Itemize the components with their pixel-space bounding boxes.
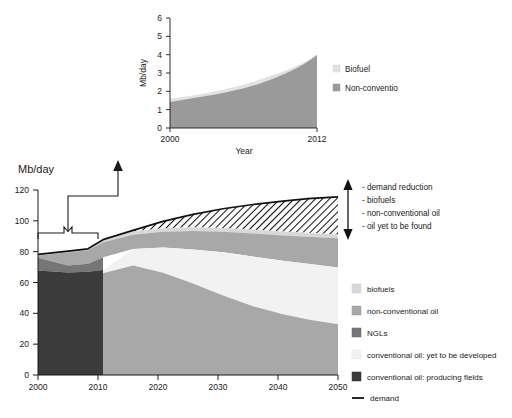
gap-span-arrow <box>343 179 352 240</box>
inset-legend-swatch-non-conventional-oil <box>333 84 340 91</box>
main-legend-label-conventional-yet-to-be-developed: conventional oil: yet to be developed <box>367 351 496 360</box>
main-xtick-2020: 2020 <box>149 382 168 392</box>
main-ytick-120: 120 <box>15 185 29 195</box>
callout-arrow-head <box>113 160 123 171</box>
inset-chart-container: 0 1 2 3 4 5 6 2000 2012 Mb/day Year Biof… <box>118 4 398 156</box>
inset-xtick-2012: 2012 <box>308 134 327 144</box>
main-x-ticks: 2000 2010 2020 2030 2040 2050 <box>29 375 348 392</box>
inset-y-axis-label: Mb/day <box>138 58 148 87</box>
inset-ytick-4: 4 <box>157 50 162 60</box>
inset-x-axis-label: Year <box>235 146 252 156</box>
main-ytick-0: 0 <box>24 370 29 380</box>
main-legend-label-conventional-producing-fields: conventional oil: producing fields <box>367 373 483 382</box>
gap-annotation-list: - demand reduction - biofuels - non-conv… <box>362 183 440 231</box>
inset-ytick-5: 5 <box>157 31 162 41</box>
main-ytick-20: 20 <box>20 339 30 349</box>
gap-annotation-item-2: - non-conventional oil <box>362 209 440 218</box>
main-y-ticks: 0 20 40 60 80 100 120 <box>15 185 38 380</box>
inset-chart-svg: 0 1 2 3 4 5 6 2000 2012 Mb/day Year Biof… <box>118 4 398 156</box>
inset-x-ticks: 2000 2012 <box>161 128 327 144</box>
gap-annotation-item-3: - oil yet to be found <box>362 222 432 231</box>
callout-connector <box>68 168 118 232</box>
inset-ytick-0: 0 <box>157 123 162 133</box>
main-xtick-2050: 2050 <box>329 382 348 392</box>
inset-y-ticks: 0 1 2 3 4 5 6 <box>157 13 170 133</box>
main-ytick-60: 60 <box>20 278 30 288</box>
main-legend-label-ngls: NGLs <box>367 329 387 338</box>
main-area-producing-fields <box>38 270 103 375</box>
main-plot-area <box>38 197 338 375</box>
inset-ytick-6: 6 <box>157 13 162 23</box>
gap-annotation-item-0: - demand reduction <box>362 183 433 192</box>
inset-legend-label-biofuel: Biofuel <box>345 65 370 74</box>
inset-ytick-1: 1 <box>157 105 162 115</box>
main-legend-swatch-conventional-producing-fields <box>352 372 361 381</box>
main-ytick-100: 100 <box>15 216 29 226</box>
inset-ytick-3: 3 <box>157 68 162 78</box>
inset-ytick-2: 2 <box>157 86 162 96</box>
main-y-axis-unit-label: Mb/day <box>18 163 55 175</box>
main-xtick-2040: 2040 <box>269 382 288 392</box>
main-legend-label-non-conventional-oil: non-conventional oil <box>367 307 438 316</box>
main-xtick-2000: 2000 <box>29 382 48 392</box>
main-legend: biofuels non-conventional oil NGLs conve… <box>352 284 496 403</box>
inset-plot-area <box>170 55 317 128</box>
main-legend-label-demand: demand <box>370 394 399 403</box>
inset-xtick-2000: 2000 <box>161 134 180 144</box>
main-legend-label-biofuels: biofuels <box>367 285 395 294</box>
main-legend-swatch-biofuels <box>352 284 361 293</box>
inset-legend-swatch-biofuel <box>333 65 340 72</box>
main-chart-svg: 0 20 40 60 80 100 120 2000 2010 2020 203… <box>0 160 512 418</box>
inset-legend-label-non-conventional-oil: Non-conventional oil <box>345 84 398 93</box>
main-legend-swatch-conventional-yet-to-be-developed <box>352 350 361 359</box>
main-ytick-40: 40 <box>20 308 30 318</box>
main-legend-swatch-ngls <box>352 328 361 337</box>
main-ytick-80: 80 <box>20 247 30 257</box>
main-xtick-2010: 2010 <box>89 382 108 392</box>
main-chart-container: 0 20 40 60 80 100 120 2000 2010 2020 203… <box>0 160 512 418</box>
main-xtick-2030: 2030 <box>209 382 228 392</box>
main-legend-swatch-non-conventional-oil <box>352 306 361 315</box>
inset-area-non-conventional-oil <box>170 55 317 128</box>
inset-legend: Biofuel Non-conventional oil <box>333 65 398 93</box>
gap-annotation-item-1: - biofuels <box>362 196 395 205</box>
